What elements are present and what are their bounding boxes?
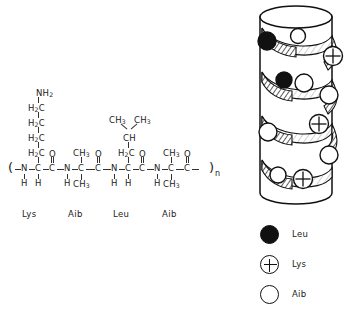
bond-co2-n3 bbox=[103, 169, 111, 170]
marker-aib-3 bbox=[320, 86, 338, 104]
atom-o-aib1: O bbox=[95, 150, 102, 159]
legend-item-lys: Lys bbox=[250, 255, 350, 277]
atom-ca-leu: C bbox=[125, 164, 131, 173]
aib2-ch3-down: CH3 bbox=[163, 180, 180, 189]
residue-label-leu: Leu bbox=[113, 209, 129, 219]
open-circle-icon bbox=[260, 285, 279, 304]
legend-label-lys: Lys bbox=[292, 259, 306, 269]
bond-co3-n4 bbox=[147, 169, 154, 170]
lys-nh2: NH2 bbox=[36, 89, 53, 98]
atom-co-aib1: C bbox=[95, 164, 101, 173]
repeat-open-paren: ( bbox=[8, 161, 13, 174]
atom-h-on-n-aib1: H bbox=[64, 179, 71, 188]
bond-ca2-co2 bbox=[86, 169, 95, 170]
legend-item-leu: Leu bbox=[250, 225, 350, 247]
legend-label-leu: Leu bbox=[292, 229, 308, 239]
marker-lys-1 bbox=[324, 47, 343, 66]
marker-leu-1 bbox=[258, 32, 276, 50]
leu-ch: CH bbox=[123, 134, 136, 143]
bond-co1-n2 bbox=[57, 169, 64, 170]
aib1-ch3-up: CH3 bbox=[73, 149, 90, 158]
marker-lys-2 bbox=[310, 115, 329, 134]
atom-n-aib1: N bbox=[64, 164, 71, 173]
lys-ch2-1: H2C bbox=[28, 104, 45, 113]
residue-label-lys: Lys bbox=[22, 209, 37, 219]
marker-aib-2 bbox=[295, 74, 313, 92]
marker-leu-2 bbox=[276, 72, 292, 88]
helix-svg bbox=[250, 0, 350, 215]
peptide-structure-diagram: ( N C C N C C N C C N C C ) n H H H H H … bbox=[0, 0, 250, 240]
atom-co-lys: C bbox=[49, 164, 55, 173]
marker-aib-1 bbox=[291, 29, 306, 44]
atom-co-aib2: C bbox=[184, 164, 190, 173]
legend-label-aib: Aib bbox=[292, 289, 306, 299]
atom-h-on-n-aib2: H bbox=[154, 179, 161, 188]
atom-o-aib2: O bbox=[184, 150, 191, 159]
repeat-close-paren: ) bbox=[209, 161, 214, 174]
atom-ca-aib2: C bbox=[168, 164, 174, 173]
leu-ch2: H2C bbox=[118, 149, 135, 158]
atom-h-on-n-leu: H bbox=[111, 179, 118, 188]
lys-ch2-3: H2C bbox=[28, 134, 45, 143]
lys-ch2-4: H2C bbox=[28, 149, 45, 158]
marker-aib-4 bbox=[259, 123, 277, 141]
aib2-ch3-up: CH3 bbox=[163, 149, 180, 158]
atom-ca-lys: C bbox=[35, 164, 41, 173]
atom-o-leu: O bbox=[139, 150, 146, 159]
atom-h-on-n-lys: H bbox=[21, 179, 28, 188]
filled-circle-icon bbox=[260, 225, 279, 244]
helix-cylinder-model bbox=[250, 0, 350, 215]
repeat-count-n: n bbox=[215, 170, 220, 178]
leu-ch3-left: CH3 bbox=[109, 116, 126, 125]
residue-label-aib-2: Aib bbox=[162, 209, 177, 219]
atom-n-lys: N bbox=[21, 164, 28, 173]
bond-ca4-co4 bbox=[176, 169, 184, 170]
legend: Leu Lys Aib bbox=[250, 225, 350, 310]
aib1-ch3-down: CH3 bbox=[73, 180, 90, 189]
marker-lys-3 bbox=[294, 170, 313, 189]
lys-ch2-2: H2C bbox=[28, 119, 45, 128]
bond-co4-end bbox=[192, 169, 199, 170]
plus-circle-icon bbox=[260, 255, 279, 274]
legend-item-aib: Aib bbox=[250, 285, 350, 307]
marker-aib-5 bbox=[320, 146, 338, 164]
leu-ch3-right: CH3 bbox=[134, 116, 151, 125]
atom-h-on-ca-lys: H bbox=[35, 179, 42, 188]
atom-co-leu: C bbox=[139, 164, 145, 173]
atom-n-aib2: N bbox=[154, 164, 161, 173]
marker-aib-6 bbox=[270, 167, 286, 183]
atom-h-on-ca-leu: H bbox=[125, 179, 132, 188]
atom-ca-aib1: C bbox=[78, 164, 84, 173]
atom-n-leu: N bbox=[111, 164, 118, 173]
residue-label-aib-1: Aib bbox=[68, 209, 83, 219]
atom-o-lys: O bbox=[49, 150, 56, 159]
